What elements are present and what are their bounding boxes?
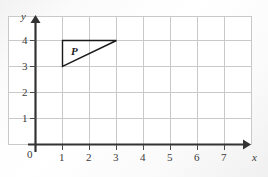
triangle-p-label: P xyxy=(71,46,78,57)
x-tick-label-7: 7 xyxy=(221,152,227,163)
y-tick-label-3: 3 xyxy=(22,61,28,72)
x-tick-label-6: 6 xyxy=(194,152,200,163)
y-tick-label-4: 4 xyxy=(22,35,28,46)
y-axis-label: y xyxy=(21,11,26,22)
x-tick-label-5: 5 xyxy=(167,152,173,163)
x-tick-label-4: 4 xyxy=(140,152,146,163)
y-tick-label-2: 2 xyxy=(22,87,28,98)
coordinate-grid-figure: 0 1 2 3 4 5 6 7 1 2 3 4 x y P xyxy=(0,0,268,177)
origin-label: 0 xyxy=(27,149,33,160)
x-axis-label: x xyxy=(252,152,257,163)
x-tick-label-2: 2 xyxy=(86,152,92,163)
x-tick-label-1: 1 xyxy=(59,152,65,163)
shape-layer xyxy=(0,0,268,177)
x-tick-label-3: 3 xyxy=(113,152,119,163)
y-tick-label-1: 1 xyxy=(22,113,28,124)
